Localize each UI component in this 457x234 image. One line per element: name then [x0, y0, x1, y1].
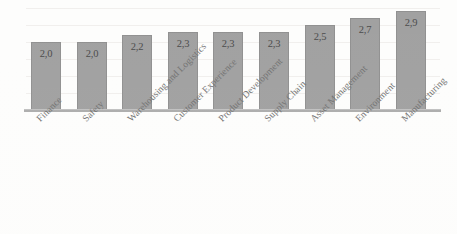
bar-chart: 2,02,02,22,32,32,32,52,72,9 FinanceSafet… — [0, 0, 457, 234]
bar-value-label: 2,2 — [122, 41, 152, 52]
bar-value-label: 2,5 — [305, 31, 335, 42]
bar-value-label: 2,9 — [396, 17, 426, 28]
bar-value-label: 2,3 — [259, 38, 289, 49]
bar-value-label: 2,0 — [31, 48, 61, 59]
bar-value-label: 2,7 — [350, 24, 380, 35]
x-axis-labels: FinanceSafetyWarehousing and LogisticsCu… — [0, 112, 457, 234]
bar-value-label: 2,0 — [77, 48, 107, 59]
bar-value-label: 2,3 — [213, 38, 243, 49]
